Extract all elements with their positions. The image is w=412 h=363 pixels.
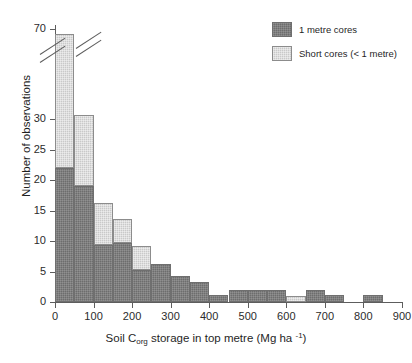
bar-segment-one-metre-cores xyxy=(267,290,286,302)
histogram-bar xyxy=(286,296,305,302)
bar-segment-short-cores xyxy=(286,296,305,302)
bar-segment-short-cores xyxy=(113,219,132,243)
histogram-bar xyxy=(171,276,190,302)
x-tick xyxy=(94,303,95,308)
bar-segment-one-metre-cores xyxy=(209,295,228,302)
bar-segment-one-metre-cores xyxy=(229,290,248,302)
x-tick xyxy=(209,303,210,308)
histogram-bar xyxy=(209,295,228,302)
x-tick-label: 700 xyxy=(305,310,345,322)
x-tick xyxy=(402,303,403,308)
x-tick xyxy=(171,303,172,308)
x-tick xyxy=(325,303,326,308)
x-tick-label: 900 xyxy=(382,310,412,322)
x-tick xyxy=(363,303,364,308)
bar-segment-one-metre-cores xyxy=(171,276,190,302)
legend-swatch-dark xyxy=(272,22,292,37)
y-tick xyxy=(50,29,55,30)
x-tick xyxy=(286,303,287,308)
bar-segment-one-metre-cores xyxy=(132,270,151,302)
bar-segment-one-metre-cores xyxy=(151,264,170,302)
bar-segment-one-metre-cores xyxy=(74,186,93,302)
x-title-superscript: -1 xyxy=(295,331,302,340)
x-tick-label: 100 xyxy=(74,310,114,322)
x-tick-label: 0 xyxy=(35,310,75,322)
histogram-bar xyxy=(229,290,248,302)
histogram-bar xyxy=(363,295,382,302)
y-axis-title: Number of observations xyxy=(20,26,32,246)
x-title-subscript: org xyxy=(136,337,148,346)
bar-segment-one-metre-cores xyxy=(325,295,344,302)
y-tick xyxy=(50,150,55,151)
histogram-bar xyxy=(151,264,170,302)
chart-legend: 1 metre coresShort cores (< 1 metre) xyxy=(272,22,397,70)
bar-segment-short-cores xyxy=(132,246,151,270)
x-tick xyxy=(248,303,249,308)
x-tick xyxy=(132,303,133,308)
x-tick-label: 300 xyxy=(151,310,191,322)
x-tick-label: 500 xyxy=(228,310,268,322)
x-tick xyxy=(55,303,56,308)
y-tick-label: 0 xyxy=(10,295,46,307)
legend-item: 1 metre cores xyxy=(272,22,397,37)
x-tick-label: 800 xyxy=(343,310,383,322)
histogram-bar xyxy=(325,295,344,302)
histogram-bar xyxy=(306,290,325,302)
x-tick-label: 400 xyxy=(189,310,229,322)
histogram-bar xyxy=(74,115,93,303)
histogram-figure: 0100200300400500600700800900 05101520253… xyxy=(0,0,412,363)
histogram-bar xyxy=(132,246,151,302)
bar-segment-one-metre-cores xyxy=(113,243,132,302)
y-tick xyxy=(50,211,55,212)
bar-segment-one-metre-cores xyxy=(248,290,267,302)
bar-segment-one-metre-cores xyxy=(94,245,113,302)
bar-segment-one-metre-cores xyxy=(55,168,74,302)
histogram-bar xyxy=(55,34,74,303)
legend-item: Short cores (< 1 metre) xyxy=(272,46,397,61)
legend-label: 1 metre cores xyxy=(299,24,357,35)
y-tick xyxy=(50,302,55,303)
bar-segment-one-metre-cores xyxy=(363,295,382,302)
bar-segment-short-cores xyxy=(94,203,113,246)
bar-segment-short-cores xyxy=(74,115,93,187)
x-tick-label: 600 xyxy=(266,310,306,322)
y-tick-label: 5 xyxy=(10,265,46,277)
bar-segment-one-metre-cores xyxy=(190,282,209,302)
histogram-bar xyxy=(94,203,113,302)
legend-swatch-light xyxy=(272,46,292,61)
histogram-bar xyxy=(267,290,286,302)
histogram-bar xyxy=(113,219,132,302)
bar-segment-one-metre-cores xyxy=(306,290,325,302)
y-tick xyxy=(50,241,55,242)
x-axis-title: Soil Corg storage in top metre (Mg ha -1… xyxy=(0,331,412,346)
histogram-bar xyxy=(190,282,209,302)
y-tick xyxy=(50,119,55,120)
y-tick xyxy=(50,180,55,181)
y-tick xyxy=(50,272,55,273)
y-axis-break-marker xyxy=(38,38,114,72)
legend-label: Short cores (< 1 metre) xyxy=(299,48,397,59)
x-axis-line xyxy=(55,302,403,303)
histogram-bar xyxy=(248,290,267,302)
x-tick-label: 200 xyxy=(112,310,152,322)
